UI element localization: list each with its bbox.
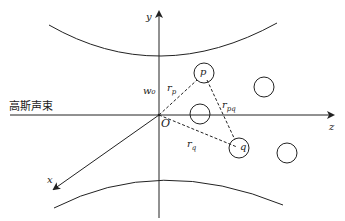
rq-line	[159, 115, 237, 147]
origin-label: O	[161, 118, 170, 129]
w0-label: w₀	[143, 86, 156, 96]
rpq-label: rpq	[222, 100, 236, 113]
gaussian-beam-label: 高斯声束	[9, 101, 53, 112]
lower-beam-boundary	[54, 180, 283, 208]
x-axis	[54, 115, 159, 189]
x-axis-label: x	[47, 175, 53, 185]
particle-p-label: p	[200, 67, 206, 77]
y-axis-label: y	[146, 12, 152, 22]
rq-label: rq	[187, 139, 196, 152]
particle-mid	[190, 104, 210, 124]
particle-q-label: q	[240, 142, 246, 152]
upper-beam-boundary	[49, 23, 277, 56]
particle-right-lower	[277, 143, 297, 163]
z-axis-label: z	[329, 122, 334, 132]
rp-label: rp	[167, 83, 176, 96]
gaussian-beam-diagram: 高斯声束 y z x O w₀ rp rq rpq p q	[0, 0, 345, 221]
particle-right-upper	[254, 77, 274, 97]
origin-dot	[158, 114, 161, 117]
